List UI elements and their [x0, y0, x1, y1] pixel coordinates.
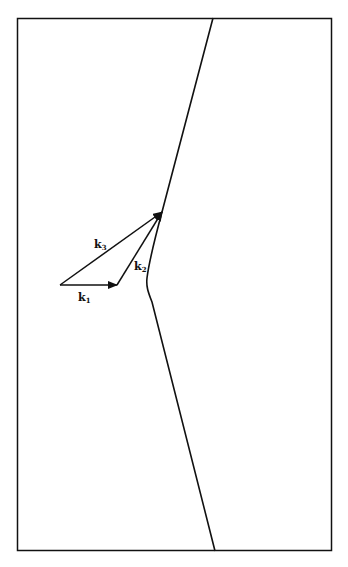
vector-k2-label: k2 — [134, 260, 147, 274]
vector-k3-label: k3 — [94, 238, 107, 252]
vector-k3-arrow — [60, 212, 162, 285]
vector-k1-label: k1 — [78, 291, 91, 305]
vector-k2-arrow — [117, 212, 162, 285]
boundary-curve — [147, 18, 215, 551]
diagram-canvas: k1 k2 k3 — [0, 0, 348, 567]
